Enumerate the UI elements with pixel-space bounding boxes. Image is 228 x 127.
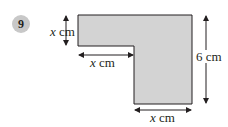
left-height-label: x cm — [50, 25, 75, 38]
right-height-label: 6 cm — [196, 50, 222, 63]
notch-width-label: x cm — [90, 56, 115, 69]
bottom-width-label: x cm — [150, 111, 175, 124]
